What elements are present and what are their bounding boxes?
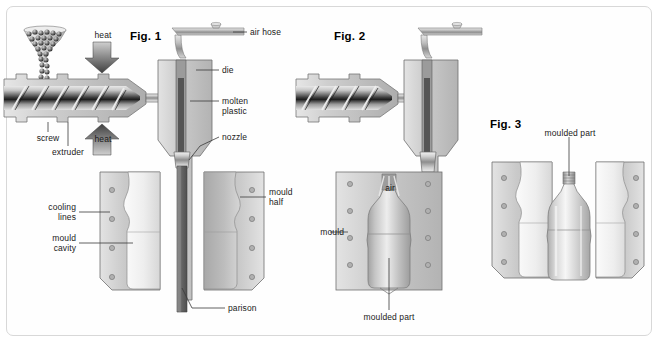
air-label: air	[377, 183, 403, 193]
cavity-left-3	[516, 162, 552, 277]
mould-cavity-right	[204, 172, 240, 289]
die-label: die	[222, 65, 234, 75]
heat-top-label: heat	[86, 30, 120, 40]
fig1-mould-left	[100, 172, 160, 290]
fig2-die-head	[404, 35, 458, 190]
fig2-title: Fig. 2	[334, 30, 365, 42]
fig1-air-hose	[172, 22, 244, 35]
fig1-title: Fig. 1	[130, 30, 161, 42]
mould-label: mould	[296, 227, 344, 237]
mould-half-label: mould half	[269, 187, 293, 207]
heat-bottom-label: heat	[86, 134, 120, 144]
fig1-mould-right	[204, 172, 264, 290]
cooling-lines-label: cooling lines	[30, 202, 76, 222]
hose-elbow	[175, 35, 186, 58]
moulded-part-label-fig2: moulded part	[345, 312, 433, 322]
fig2-air-hose	[418, 22, 482, 35]
fig3-title: Fig. 3	[490, 118, 521, 130]
diagram-canvas: Fig. 1 Fig. 2 Fig. 3 heat heat air hose …	[0, 0, 662, 346]
moulded-part-label-fig3: moulded part	[526, 128, 614, 138]
nozzle-label: nozzle	[222, 132, 247, 142]
heat-arrow-down-icon	[85, 42, 119, 73]
hose-elbow-2	[421, 35, 432, 58]
screw-label: screw	[31, 133, 65, 143]
parison-label: parison	[228, 303, 257, 313]
extruder-label: extruder	[45, 147, 91, 157]
cavity-right-3	[596, 162, 628, 277]
molten-plastic-label: molten plastic	[222, 96, 248, 116]
nozzle-tip-2	[420, 152, 436, 172]
parison-tube	[177, 166, 187, 312]
fig3-open-mould	[492, 162, 644, 280]
finished-bottle-3	[547, 182, 591, 280]
mould-cavity-left	[124, 172, 160, 289]
molten-plastic-column	[178, 78, 184, 160]
nozzle-tip	[174, 152, 190, 168]
diagram-artwork	[0, 0, 662, 346]
mould-cavity-label: mould cavity	[30, 233, 76, 253]
air-hose-label: air hose	[250, 27, 281, 37]
